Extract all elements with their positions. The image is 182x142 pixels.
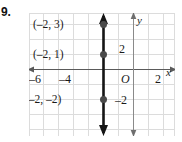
point-label-1: (–2, 1) — [33, 49, 64, 61]
y-tick-label-neg2: –2 — [115, 94, 127, 106]
x-tick-label-2: 2 — [155, 73, 161, 85]
x-axis-label: x — [166, 67, 171, 78]
origin-label: O — [121, 73, 130, 85]
x-tick-label-neg4: –4 — [59, 73, 71, 85]
coordinate-plane: (–2, 3) (–2, 1) (–2, –2) –6 –4 2 2 –2 O … — [29, 13, 175, 136]
y-axis-label: y — [137, 15, 142, 26]
point-label-0: (–2, 3) — [33, 19, 64, 31]
point-label-2: (–2, –2) — [29, 94, 61, 106]
plotted-line-x-equals-neg2 — [29, 13, 175, 136]
graph-figure: 9. — [0, 0, 182, 142]
y-tick-label-2: 2 — [119, 43, 125, 55]
problem-number: 9. — [1, 6, 11, 18]
x-tick-label-neg6: –6 — [29, 73, 41, 85]
